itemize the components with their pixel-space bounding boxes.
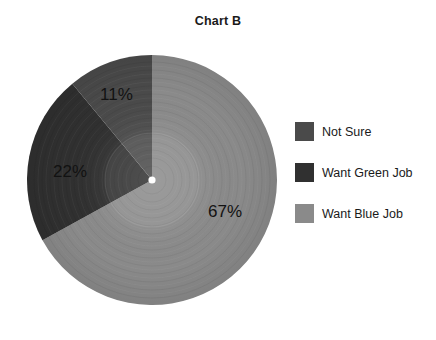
- slice-value-want-blue-job: 67%: [208, 203, 242, 220]
- legend-item-not-sure[interactable]: Not Sure: [295, 122, 435, 163]
- legend-swatch-icon: [295, 163, 314, 182]
- legend-item-label: Want Green Job: [322, 165, 413, 181]
- chart-legend: Not Sure Want Green Job Want Blue Job: [295, 122, 435, 245]
- legend-item-label: Not Sure: [322, 124, 371, 140]
- chart-title: Chart B: [0, 14, 436, 28]
- legend-swatch-icon: [295, 122, 314, 141]
- pie-center-dot: [148, 176, 155, 183]
- chart-container: Chart B: [0, 0, 436, 340]
- legend-item-want-blue-job[interactable]: Want Blue Job: [295, 204, 435, 245]
- slice-value-not-sure: 11%: [100, 86, 133, 103]
- legend-item-want-green-job[interactable]: Want Green Job: [295, 163, 435, 204]
- legend-item-label: Want Blue Job: [322, 206, 403, 222]
- legend-swatch-icon: [295, 204, 314, 223]
- slice-value-want-green-job: 22%: [53, 163, 87, 180]
